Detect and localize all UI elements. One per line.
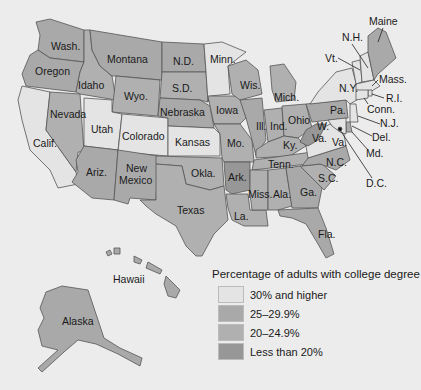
label-nebraska: Nebraska <box>160 106 205 118</box>
state-alaska[interactable] <box>38 286 142 372</box>
legend-label: 30% and higher <box>250 289 327 301</box>
label-pa: Pa. <box>330 104 346 116</box>
label-minn: Minn. <box>210 53 236 65</box>
label-wva-2: Va. <box>312 132 327 144</box>
label-ark: Ark. <box>228 171 247 183</box>
label-hawaii: Hawaii <box>113 273 145 285</box>
label-nh: N.H. <box>342 31 363 43</box>
state-nj[interactable] <box>350 104 358 122</box>
state-hawaii-4[interactable] <box>146 262 162 274</box>
label-colorado: Colorado <box>122 130 165 142</box>
legend-label: Less than 20% <box>250 346 323 358</box>
legend-item-25-29: 25–29.9% <box>218 304 417 323</box>
label-new-mexico-2: Mexico <box>119 174 152 186</box>
legend-title: Percentage of adults with college degree <box>212 268 417 280</box>
label-nj: N.J. <box>380 117 399 129</box>
legend-item-20-24: 20–24.9% <box>218 323 417 342</box>
label-montana: Montana <box>107 53 148 65</box>
label-wyo: Wyo. <box>124 90 148 102</box>
label-ala: Ala. <box>273 188 291 200</box>
legend-label: 25–29.9% <box>250 308 300 320</box>
label-kansas: Kansas <box>175 136 210 148</box>
label-alaska: Alaska <box>62 315 94 327</box>
label-md: Md. <box>366 147 384 159</box>
leader-conn <box>364 98 368 104</box>
state-del[interactable] <box>346 122 352 132</box>
state-hawaii-3[interactable] <box>134 256 142 264</box>
label-ga: Ga. <box>300 186 317 198</box>
label-sd: S.D. <box>172 82 192 94</box>
label-calif: Calif. <box>33 137 57 149</box>
label-ariz: Ariz. <box>86 166 107 178</box>
leader-del <box>352 126 372 136</box>
label-okla: Okla. <box>191 167 216 179</box>
label-wash: Wash. <box>51 40 80 52</box>
legend: Percentage of adults with college degree… <box>212 268 417 361</box>
label-sc: S.C. <box>318 172 338 184</box>
label-fla: Fla. <box>318 228 336 240</box>
state-hawaii-2[interactable] <box>114 248 120 254</box>
label-utah: Utah <box>91 123 113 135</box>
state-ri[interactable] <box>368 90 372 96</box>
label-wis: Wis. <box>240 79 260 91</box>
label-idaho: Idaho <box>78 79 104 91</box>
label-del: Del. <box>372 131 391 143</box>
label-ind: Ind. <box>270 120 288 132</box>
label-iowa: Iowa <box>216 104 238 116</box>
label-tenn: Tenn. <box>268 158 294 170</box>
label-oregon: Oregon <box>35 65 70 77</box>
legend-swatch-25-29 <box>218 305 244 322</box>
label-nc: N.C. <box>326 156 347 168</box>
label-nevada: Nevada <box>50 108 86 120</box>
state-hawaii-1[interactable] <box>106 250 112 256</box>
label-ky: Ky. <box>283 139 297 151</box>
label-la: La. <box>234 210 249 222</box>
state-hawaii-5[interactable] <box>164 276 180 298</box>
legend-item-30-plus: 30% and higher <box>218 285 417 304</box>
legend-item-lt-20: Less than 20% <box>218 342 417 361</box>
leader-md <box>352 132 368 150</box>
label-dc: D.C. <box>366 177 387 189</box>
label-mo: Mo. <box>227 137 245 149</box>
label-nd: N.D. <box>173 55 194 67</box>
label-miss: Miss. <box>248 188 273 200</box>
legend-swatch-20-24 <box>218 324 244 341</box>
label-vt: Vt. <box>325 52 338 64</box>
leader-ri <box>372 94 384 98</box>
legend-label: 20–24.9% <box>250 327 300 339</box>
label-ill: Ill. <box>256 120 267 132</box>
label-mass: Mass. <box>379 73 407 85</box>
label-wva-1: W. <box>317 120 329 132</box>
label-ny: N.Y. <box>339 82 358 94</box>
leader-nj <box>358 116 380 124</box>
label-ohio: Ohio <box>288 114 310 126</box>
label-new-mexico-1: New <box>126 162 147 174</box>
label-conn: Conn. <box>367 103 395 115</box>
legend-swatch-lt-20 <box>218 343 244 360</box>
label-maine: Maine <box>369 15 398 27</box>
legend-swatch-30-plus <box>218 286 244 303</box>
label-mich: Mich. <box>274 91 299 103</box>
label-texas: Texas <box>177 204 204 216</box>
